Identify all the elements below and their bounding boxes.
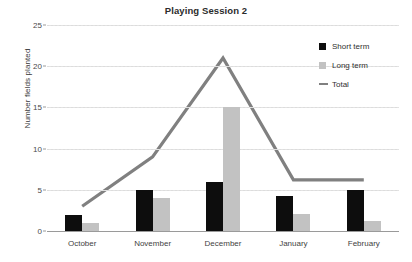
- legend-swatch-long-term-icon: [319, 62, 326, 69]
- bar-december-long-term[interactable]: [223, 107, 240, 231]
- chart-legend: Short term Long term Total: [319, 38, 409, 95]
- bar-january-short-term[interactable]: [276, 196, 293, 231]
- bar-group: November: [136, 25, 170, 231]
- y-tick-label-25: 25: [33, 21, 42, 30]
- y-tick-mark-20: [43, 66, 46, 67]
- x-tick-label-february: February: [329, 239, 399, 248]
- legend-label-total: Total: [332, 80, 349, 89]
- bar-group: October: [65, 25, 99, 231]
- bar-december-short-term[interactable]: [206, 182, 223, 231]
- bar-february-long-term[interactable]: [364, 221, 381, 231]
- x-tick-label-november: November: [118, 239, 188, 248]
- legend-swatch-total-icon: [319, 83, 328, 85]
- y-tick-label-10: 10: [33, 144, 42, 153]
- bar-january-long-term[interactable]: [293, 214, 310, 231]
- legend-label-short-term: Short term: [332, 42, 369, 51]
- bar-november-short-term[interactable]: [136, 190, 153, 231]
- legend-item-long-term[interactable]: Long term: [319, 57, 409, 73]
- y-tick-label-0: 0: [38, 227, 42, 236]
- legend-item-short-term[interactable]: Short term: [319, 38, 409, 54]
- x-tick-label-october: October: [47, 239, 117, 248]
- y-tick-mark-10: [43, 148, 46, 149]
- bar-november-long-term[interactable]: [153, 198, 170, 231]
- bar-october-short-term[interactable]: [65, 215, 82, 231]
- bar-october-long-term[interactable]: [82, 223, 99, 231]
- x-tick-label-december: December: [188, 239, 258, 248]
- y-tick-mark-5: [43, 189, 46, 190]
- chart-title: Playing Session 2: [0, 5, 412, 16]
- chart-container: Playing Session 2 Number fields planted …: [0, 0, 412, 262]
- y-tick-mark-15: [43, 107, 46, 108]
- bar-february-short-term[interactable]: [347, 190, 364, 231]
- legend-swatch-short-term-icon: [319, 43, 326, 50]
- gridline-0: [47, 231, 399, 232]
- y-tick-label-15: 15: [33, 103, 42, 112]
- bar-group: January: [276, 25, 310, 231]
- legend-item-total[interactable]: Total: [319, 76, 409, 92]
- legend-label-long-term: Long term: [332, 61, 368, 70]
- x-tick-label-january: January: [258, 239, 328, 248]
- y-tick-mark-0: [43, 231, 46, 232]
- y-tick-label-20: 20: [33, 62, 42, 71]
- y-tick-mark-25: [43, 25, 46, 26]
- bar-group: December: [206, 25, 240, 231]
- y-axis-title: Number fields planted: [23, 14, 32, 164]
- y-tick-label-5: 5: [38, 185, 42, 194]
